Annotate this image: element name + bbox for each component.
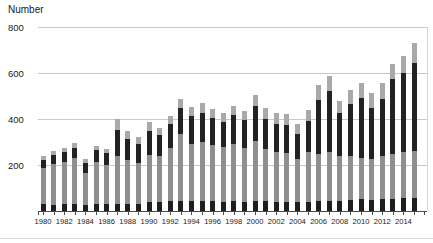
bar-2006-segment-mid-gray (316, 154, 321, 201)
bar-2010-segment-upper-black (359, 98, 364, 158)
bar-1989-segment-upper-black (136, 144, 141, 163)
bar-2008-segment-top-gray (337, 101, 342, 113)
bar-2003-segment-top-gray (284, 114, 289, 125)
bar-2007-segment-bottom-black (327, 201, 332, 211)
bar-1996 (210, 109, 215, 211)
bar-2002-segment-bottom-black (274, 202, 279, 211)
bar-2014 (401, 56, 406, 211)
x-tick-1995 (202, 212, 203, 215)
bar-1994-segment-upper-black (189, 116, 194, 144)
bar-2013-segment-top-gray (390, 64, 395, 79)
bar-2008-segment-bottom-black (337, 201, 342, 211)
bar-1995-segment-top-gray (200, 103, 205, 112)
x-axis-line (38, 211, 427, 212)
x-tick-label-1994: 1994 (183, 217, 200, 226)
bar-2014-segment-top-gray (401, 56, 406, 73)
x-tick-1994 (191, 212, 192, 215)
bar-2012-segment-upper-black (380, 99, 385, 156)
bar-1997-segment-bottom-black (221, 202, 226, 211)
bar-2014-segment-mid-gray (401, 152, 406, 198)
bar-1985-segment-upper-black (94, 150, 99, 162)
bar-1999-segment-top-gray (242, 111, 247, 120)
x-tick-1993 (181, 212, 182, 215)
bar-1984-segment-mid-gray (83, 173, 88, 205)
x-tick-1998 (234, 212, 235, 215)
bar-1981-segment-mid-gray (51, 164, 56, 204)
x-tick-2008 (340, 212, 341, 215)
y-axis-title: Number (8, 4, 44, 15)
bar-2013-segment-mid-gray (390, 154, 395, 200)
bar-1989-segment-mid-gray (136, 163, 141, 204)
bar-2001 (263, 108, 268, 211)
bar-2007-segment-top-gray (327, 76, 332, 91)
bar-2009-segment-top-gray (348, 90, 353, 104)
bar-1993-segment-top-gray (178, 99, 183, 108)
bar-1991-segment-mid-gray (157, 156, 162, 202)
bar-1980-segment-mid-gray (41, 168, 46, 203)
y-tick-label-400: 400 (8, 114, 24, 125)
bar-1988 (125, 131, 130, 211)
bar-2010 (359, 83, 364, 211)
bar-1987-segment-bottom-black (115, 204, 120, 211)
bar-1990-segment-upper-black (147, 131, 152, 155)
bar-2000-segment-bottom-black (253, 201, 258, 211)
x-tick-2015 (414, 212, 415, 215)
bar-1992-segment-mid-gray (168, 148, 173, 201)
bar-1997-segment-mid-gray (221, 147, 226, 202)
bar-2003 (284, 114, 289, 211)
bar-1998 (231, 106, 236, 211)
x-tick-2004 (297, 212, 298, 215)
bar-2007-segment-mid-gray (327, 152, 332, 200)
x-tick-2014 (403, 212, 404, 215)
bar-1998-segment-bottom-black (231, 201, 236, 211)
bar-1982 (62, 148, 67, 211)
y-gridline-600 (38, 73, 427, 74)
x-tick-label-1998: 1998 (225, 217, 242, 226)
bar-2004 (295, 124, 300, 211)
bar-2009-segment-upper-black (348, 104, 353, 156)
bar-2006-segment-top-gray (316, 85, 321, 100)
bar-2013-segment-bottom-black (390, 199, 395, 211)
bar-1980-segment-bottom-black (41, 204, 46, 211)
y-gridline-800 (38, 27, 427, 28)
bar-1990-segment-bottom-black (147, 202, 152, 211)
x-tick-label-1990: 1990 (141, 217, 158, 226)
bar-1983 (72, 143, 77, 211)
bar-1999-segment-bottom-black (242, 202, 247, 211)
bar-2011 (369, 93, 374, 211)
bar-2011-segment-upper-black (369, 108, 374, 159)
bar-1997 (221, 113, 226, 211)
x-tick-2010 (361, 212, 362, 215)
bar-1995-segment-bottom-black (200, 201, 205, 211)
bar-1990 (147, 122, 152, 211)
bar-2015-segment-top-gray (412, 43, 417, 63)
x-tick-2001 (266, 212, 267, 215)
x-tick-1992 (170, 212, 171, 215)
bar-2005-segment-upper-black (306, 121, 311, 152)
bar-2015 (412, 43, 417, 211)
bar-1993-segment-upper-black (178, 108, 183, 134)
bar-2013 (390, 64, 395, 211)
bar-1991-segment-bottom-black (157, 202, 162, 211)
x-tick-2002 (276, 212, 277, 215)
x-tick-1982 (64, 212, 65, 215)
bar-1988-segment-top-gray (125, 131, 130, 139)
bar-1985-segment-mid-gray (94, 162, 99, 205)
bar-2005-segment-bottom-black (306, 202, 311, 211)
x-tick-1984 (85, 212, 86, 215)
bar-2006 (316, 85, 321, 211)
bar-2005-segment-mid-gray (306, 152, 311, 201)
bar-2010-segment-mid-gray (359, 158, 364, 198)
page-divider-line (0, 238, 433, 239)
bar-2005 (306, 110, 311, 211)
bar-1995-segment-mid-gray (200, 142, 205, 202)
bar-1996-segment-mid-gray (210, 145, 215, 201)
bar-1986 (104, 149, 109, 211)
bar-1997-segment-top-gray (221, 113, 226, 122)
bar-1995 (200, 103, 205, 211)
bar-2011-segment-mid-gray (369, 159, 374, 200)
x-tick-1986 (107, 212, 108, 215)
x-tick-2003 (287, 212, 288, 215)
bar-2008-segment-upper-black (337, 113, 342, 156)
bar-2000-segment-top-gray (253, 95, 258, 107)
